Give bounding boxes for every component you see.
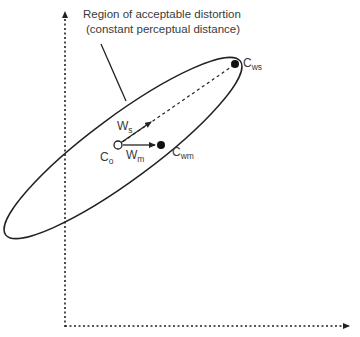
caption-line-2: (constant perceptual distance)	[86, 23, 240, 35]
caption-line-1: Region of acceptable distortion	[83, 8, 241, 20]
point-co	[114, 141, 122, 149]
label-co: Co	[100, 150, 114, 166]
label-cwm: Cwm	[172, 145, 194, 161]
point-cwm	[157, 141, 165, 149]
label-ws: Ws	[117, 119, 133, 135]
label-cws: Cws	[243, 56, 262, 72]
label-wm: Wm	[126, 148, 144, 164]
caption-leader-line	[101, 44, 126, 101]
point-cws	[231, 60, 239, 68]
distortion-diagram: Region of acceptable distortion (constan…	[0, 0, 360, 337]
